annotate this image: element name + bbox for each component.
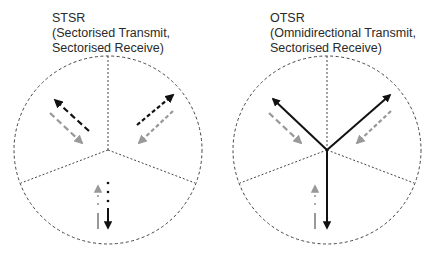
- stsr-sector-line-left: [21, 150, 108, 183]
- stsr-transmit-arrow-bottom: [107, 182, 110, 228]
- otsr-sector-line-right: [327, 150, 414, 183]
- otsr-receive-arrow-upper-right: [357, 111, 391, 143]
- stsr-receive-arrow-upper-left: [50, 113, 82, 143]
- otsr-receive-arrow-upper-left: [269, 113, 301, 143]
- stsr-sector-line-right: [108, 150, 195, 183]
- stsr-receive-arrow-upper-right: [139, 111, 173, 143]
- otsr-panel: [233, 56, 421, 244]
- diagram-canvas: [0, 0, 437, 260]
- stsr-panel: [14, 56, 202, 244]
- otsr-receive-arrow-bottom: [314, 186, 316, 229]
- stsr-receive-arrow-bottom: [97, 186, 99, 229]
- stsr-transmit-arrow-upper-right: [137, 95, 173, 125]
- otsr-transmit-arrow-upper-right: [327, 95, 390, 150]
- stsr-transmit-arrow-upper-left: [55, 100, 89, 131]
- otsr-sector-line-left: [240, 150, 327, 183]
